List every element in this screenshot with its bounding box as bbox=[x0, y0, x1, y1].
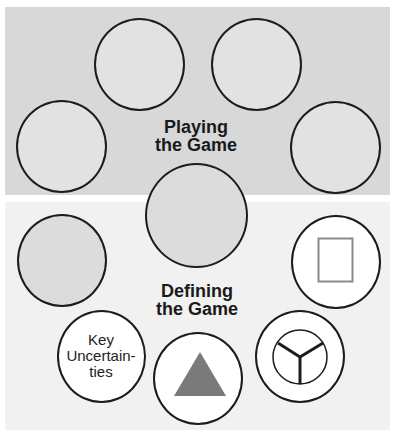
playing-circle-left bbox=[16, 100, 107, 193]
defining-title-line1: Defining bbox=[137, 282, 257, 300]
rectangle-icon bbox=[291, 215, 381, 309]
defining-circle-left bbox=[17, 214, 107, 307]
defining-circle-y-symbol bbox=[255, 310, 345, 403]
playing-title-line2: the Game bbox=[136, 136, 256, 154]
defining-title-line2: the Game bbox=[137, 300, 257, 318]
key-uncertainties-line2: Uncertain- bbox=[57, 348, 146, 364]
defining-circle-rectangle bbox=[291, 215, 381, 309]
key-uncertainties-line1: Key bbox=[57, 332, 146, 348]
playing-circle-top-left bbox=[94, 18, 185, 111]
defining-title: Defining the Game bbox=[137, 282, 257, 318]
triangle-icon bbox=[153, 332, 243, 425]
playing-title: Playing the Game bbox=[136, 118, 256, 154]
key-uncertainties-label: Key Uncertain- ties bbox=[57, 332, 146, 380]
center-circle bbox=[145, 163, 248, 268]
playing-title-line1: Playing bbox=[136, 118, 256, 136]
key-uncertainties-circle: Key Uncertain- ties bbox=[57, 310, 146, 403]
playing-circle-right bbox=[290, 101, 381, 194]
defining-circle-triangle bbox=[153, 332, 243, 425]
y-in-circle-icon bbox=[255, 310, 345, 403]
key-uncertainties-line3: ties bbox=[57, 364, 146, 380]
playing-circle-top-right bbox=[211, 18, 302, 111]
